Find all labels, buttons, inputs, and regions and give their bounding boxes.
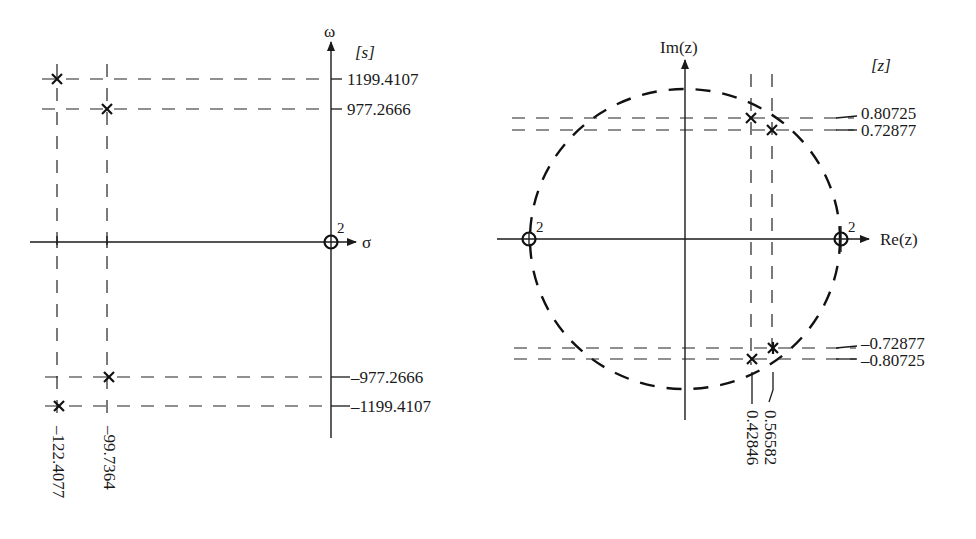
im-axis-label: Im(z) xyxy=(660,38,698,57)
sigma-tick-label: –99.7364 xyxy=(100,425,119,490)
re-tick-label: 0.42846 xyxy=(743,410,762,465)
s-plane-label: [s] xyxy=(355,43,375,62)
sigma-axis-label: σ xyxy=(362,233,371,252)
omega-tick-label: 977.2666 xyxy=(347,100,411,119)
z-plane-diagram: 2 2 Im(z) Re(z) [z] 0.80725 0.72877 –0.7… xyxy=(497,38,925,465)
re-tick-label: 0.56582 xyxy=(761,410,780,465)
zero-multiplicity: 2 xyxy=(848,219,856,235)
re-axis-label: Re(z) xyxy=(880,230,918,249)
im-tick-label: 0.72877 xyxy=(861,121,917,140)
omega-tick-label: –1199.4107 xyxy=(350,397,432,416)
leader-line xyxy=(769,372,773,402)
pole-marker xyxy=(768,342,778,354)
z-plane-label: [z] xyxy=(871,56,891,75)
zero-multiplicity: 2 xyxy=(337,220,345,236)
omega-tick-label: –977.2666 xyxy=(350,368,423,387)
omega-tick-label: 1199.4107 xyxy=(347,70,419,89)
omega-axis-label: ω xyxy=(324,22,335,41)
im-tick-label: –0.80725 xyxy=(860,351,925,370)
sigma-tick-label: –122.4077 xyxy=(49,425,68,499)
s-plane-diagram: 2 ω σ [s] 1199.4107 977.2666 –977.2666 –… xyxy=(30,22,432,499)
zero-multiplicity: 2 xyxy=(536,219,544,235)
